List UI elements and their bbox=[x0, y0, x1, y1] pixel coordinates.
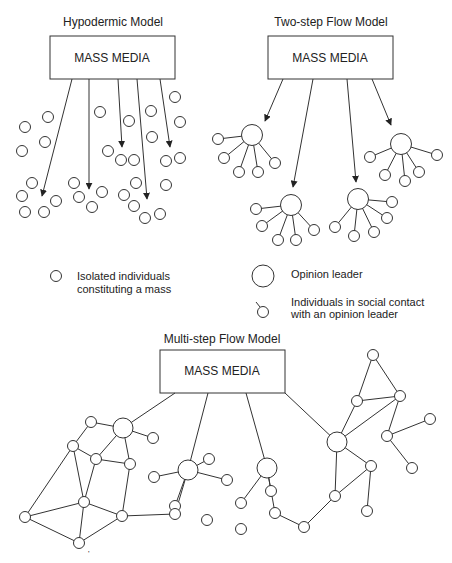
two-step-flow-model bbox=[213, 36, 443, 246]
isolated-individual-node bbox=[17, 191, 28, 202]
individual-node bbox=[425, 414, 436, 425]
follower-node bbox=[387, 197, 398, 208]
individual-node bbox=[204, 454, 215, 465]
follower-node bbox=[234, 167, 245, 178]
individual-node bbox=[382, 431, 393, 442]
opinion-leader-node bbox=[257, 458, 277, 478]
individual-node bbox=[91, 454, 102, 465]
influence-arrow bbox=[265, 79, 283, 121]
network-edge bbox=[84, 502, 122, 516]
follower-node bbox=[213, 134, 224, 145]
follower-node bbox=[330, 222, 341, 233]
follower-node bbox=[380, 170, 391, 181]
hypodermic-title: Hypodermic Model bbox=[63, 15, 163, 29]
multi-step-title: Multi-step Flow Model bbox=[164, 332, 281, 346]
isolated-individual-node bbox=[129, 201, 140, 212]
follower-node bbox=[400, 176, 411, 187]
individual-node bbox=[368, 350, 379, 361]
isolated-individual-node bbox=[124, 116, 135, 127]
network-edge bbox=[335, 466, 371, 496]
isolated-individual-node bbox=[87, 202, 98, 213]
network-edge bbox=[84, 459, 96, 502]
individual-node bbox=[86, 417, 97, 428]
follower-node bbox=[251, 204, 262, 215]
network-edge bbox=[122, 464, 130, 516]
follower-node bbox=[253, 167, 264, 178]
individual-node bbox=[125, 459, 136, 470]
individual-node bbox=[202, 515, 213, 526]
legend-contact-line2: with an opinion leader bbox=[290, 308, 398, 320]
opinion-leader-node bbox=[391, 134, 412, 155]
individual-node bbox=[395, 391, 406, 402]
media-link-line bbox=[285, 393, 337, 442]
individual-node bbox=[362, 506, 373, 517]
follower-node bbox=[382, 213, 393, 224]
individual-node bbox=[330, 491, 341, 502]
network-edge bbox=[73, 446, 84, 502]
opinion-leader-node bbox=[348, 189, 369, 210]
follower-node bbox=[309, 225, 320, 236]
isolated-individual-node bbox=[155, 209, 166, 220]
legend-opinion-leader: Opinion leader bbox=[291, 268, 363, 280]
multi-step-mass-media-label: MASS MEDIA bbox=[184, 364, 259, 378]
individual-node bbox=[117, 511, 128, 522]
isolated-individual-node bbox=[175, 153, 186, 164]
isolated-individual-node bbox=[74, 192, 85, 203]
isolated-individual-node bbox=[95, 107, 106, 118]
network-edge bbox=[122, 514, 175, 516]
network-edge bbox=[373, 355, 400, 396]
follower-node bbox=[349, 231, 360, 242]
isolated-individual-node bbox=[175, 117, 186, 128]
network-edge bbox=[387, 396, 400, 436]
network-edge bbox=[387, 419, 430, 436]
network-edge bbox=[367, 466, 371, 511]
individual-node bbox=[236, 498, 247, 509]
influence-arrow bbox=[293, 79, 313, 187]
legend-isolated-line1: Isolated individuals bbox=[77, 270, 170, 282]
legend-contact-line bbox=[256, 302, 260, 307]
isolated-individual-node bbox=[20, 122, 31, 133]
legend-opinion-leader-icon bbox=[252, 265, 274, 287]
isolated-individual-node bbox=[27, 178, 38, 189]
individual-node bbox=[222, 475, 233, 486]
legend-isolated-line2: constituting a mass bbox=[77, 283, 172, 295]
influence-arrow bbox=[118, 79, 122, 147]
footnote-mark: ' bbox=[88, 549, 90, 558]
isolated-individual-node bbox=[119, 190, 130, 201]
isolated-individual-node bbox=[51, 196, 62, 207]
influence-arrow bbox=[372, 79, 391, 125]
opinion-leader-node bbox=[178, 460, 198, 480]
isolated-individual-node bbox=[43, 112, 54, 123]
opinion-leader-node bbox=[327, 432, 347, 452]
diagram-canvas: ' Hypodermic Model MASS MEDIA Two-step F… bbox=[0, 0, 452, 563]
legend-contact-icon bbox=[258, 307, 269, 318]
network-edge bbox=[79, 516, 122, 543]
opinion-leader-node bbox=[242, 125, 263, 146]
follower-node bbox=[219, 153, 230, 164]
individual-node bbox=[366, 461, 377, 472]
follower-node bbox=[365, 152, 376, 163]
follower-node bbox=[369, 227, 380, 238]
individual-node bbox=[170, 509, 181, 520]
isolated-individual-node bbox=[129, 155, 140, 166]
individual-node bbox=[352, 396, 363, 407]
network-edge bbox=[304, 496, 335, 527]
isolated-individual-node bbox=[69, 178, 80, 189]
isolated-individual-node bbox=[161, 156, 172, 167]
isolated-individual-node bbox=[20, 207, 31, 218]
follower-node bbox=[257, 221, 268, 232]
isolated-individual-node bbox=[40, 137, 51, 148]
individual-node bbox=[148, 433, 159, 444]
network-edge bbox=[79, 502, 84, 543]
hypodermic-mass-media-label: MASS MEDIA bbox=[74, 51, 149, 65]
isolated-individual-node bbox=[131, 178, 142, 189]
individual-node bbox=[299, 522, 310, 533]
network-edge bbox=[357, 355, 373, 401]
individual-node bbox=[407, 463, 418, 474]
individual-node bbox=[266, 486, 277, 497]
isolated-individual-node bbox=[146, 106, 157, 117]
individual-node bbox=[74, 538, 85, 549]
isolated-individual-node bbox=[147, 132, 158, 143]
isolated-individual-node bbox=[97, 187, 108, 198]
opinion-leader-node bbox=[281, 195, 302, 216]
